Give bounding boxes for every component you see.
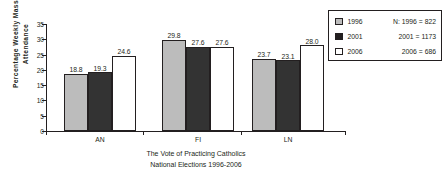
legend-row-2006: 2006 2006 = 686 [335,45,436,58]
legend-n-2006: 2006 = 686 [402,48,436,55]
bar-ln-2006: 28.0 [300,45,324,131]
x-tick-mark-3 [345,131,346,135]
y-axis-title-line-1: Percentage Weekly Mass [11,0,21,109]
bar-value-label: 27.6 [215,39,228,46]
bar-chart: Percentage Weekly Mass Attendance 051015… [0,0,447,177]
bar-fi-2001: 27.6 [186,47,210,131]
x-category-label-ln: LN [284,136,293,143]
y-axis-title-line-2: Attendance [21,0,31,109]
y-tick-label: 10 [37,97,44,104]
bar-ln-2001: 23.1 [276,60,300,131]
legend-label-2001: 2001 [348,33,363,40]
bar-ln-1996: 23.7 [252,59,276,131]
bar-fi-1996: 29.8 [162,40,186,131]
bar-group-an: 18.819.324.6 [64,24,136,131]
legend: 1996 N: 1996 = 822 2001 2001 = 1173 2006… [328,10,442,61]
bar-value-label: 19.3 [93,65,106,72]
caption-line-2: National Elections 1996-2006 [46,160,346,171]
legend-row-1996: 1996 N: 1996 = 822 [335,15,436,28]
x-tick-mark-2 [241,131,242,135]
bar-value-label: 24.6 [117,48,130,55]
legend-swatch-1996 [335,18,343,26]
bar-value-label: 23.7 [257,51,270,58]
x-category-label-an: AN [95,136,104,143]
legend-swatch-2001 [335,33,343,41]
y-tick-label: 0 [40,128,44,135]
x-category-label-fi: FI [195,136,201,143]
bar-group-fi: 29.827.627.6 [162,24,234,131]
y-tick-label: 25 [37,51,44,58]
bar-value-label: 29.8 [167,32,180,39]
x-tick-mark-0 [46,131,47,135]
legend-n-2001: 2001 = 1173 [399,33,436,40]
legend-label-2006: 2006 [348,48,363,55]
bar-an-1996: 18.8 [64,74,88,131]
legend-label-1996: 1996 [348,18,363,25]
y-tick-label: 30 [37,36,44,43]
y-axis-title: Percentage Weekly Mass Attendance [11,0,37,109]
legend-n-1996: N: 1996 = 822 [393,18,436,25]
bar-fi-2006: 27.6 [210,47,234,131]
y-tick-label: 20 [37,66,44,73]
chart-caption: The Vote of Practicing Catholics Nationa… [46,149,346,170]
legend-swatch-2006 [335,48,343,56]
bar-value-label: 28.0 [305,38,318,45]
bar-an-2006: 24.6 [112,56,136,131]
bar-group-ln: 23.723.128.0 [252,24,324,131]
y-tick-label: 5 [40,112,44,119]
bar-an-2001: 19.3 [88,72,112,131]
legend-row-2001: 2001 2001 = 1173 [335,30,436,43]
bar-value-label: 27.6 [191,39,204,46]
caption-line-1: The Vote of Practicing Catholics [46,149,346,160]
x-axis-line [46,131,346,132]
plot-area: 05101520253035 18.819.324.629.827.627.62… [46,24,345,131]
y-tick-label: 15 [37,82,44,89]
bar-value-label: 18.8 [69,66,82,73]
x-tick-mark-1 [143,131,144,135]
y-tick-label: 35 [37,21,44,28]
bar-value-label: 23.1 [281,53,294,60]
